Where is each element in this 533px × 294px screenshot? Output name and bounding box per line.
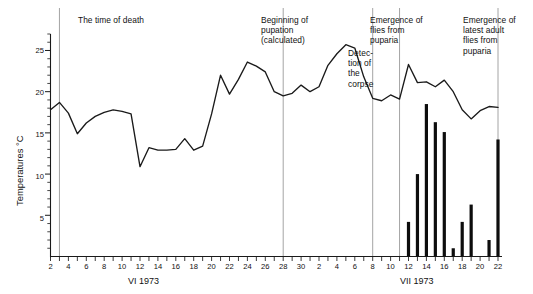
bar-VII-19: [470, 205, 473, 257]
x-tick-label-VII-12: 12: [400, 262, 418, 271]
x-tick-label-VI-18: 18: [185, 262, 203, 271]
bar-VII-12: [407, 222, 410, 257]
x-tick-label-VI-2: 2: [42, 262, 60, 271]
y-tick-label-5: 5: [28, 214, 44, 223]
y-tick-label-20: 20: [28, 88, 44, 97]
bar-VII-16: [443, 132, 446, 256]
x-tick-label-VI-20: 20: [203, 262, 221, 271]
y-tick-label-10: 10: [28, 172, 44, 181]
x-tick-label-VI-10: 10: [113, 262, 131, 271]
y-axis-title: Temperatures °C: [14, 136, 25, 206]
x-tick-label-VII-2: 2: [310, 262, 328, 271]
y-tick-label-25: 25: [28, 46, 44, 55]
bar-VII-17: [452, 248, 455, 256]
x-axis-caption-july: VII 1973: [400, 276, 434, 286]
x-tick-label-VI-30: 30: [292, 262, 310, 271]
bar-VII-22: [496, 139, 499, 256]
x-tick-label-VI-28: 28: [274, 262, 292, 271]
x-tick-label-VII-22: 22: [489, 262, 507, 271]
bar-VII-15: [434, 122, 437, 256]
annotation-emergence-of-flies: Emergence of flies from puparia: [370, 15, 460, 46]
bar-VII-13: [416, 174, 419, 256]
bar-VII-14: [425, 104, 428, 256]
x-tick-label-VI-8: 8: [95, 262, 113, 271]
x-tick-label-VI-4: 4: [59, 262, 77, 271]
x-tick-label-VI-6: 6: [77, 262, 95, 271]
x-tick-label-VI-24: 24: [238, 262, 256, 271]
x-tick-label-VII-18: 18: [453, 262, 471, 271]
annotation-emergence-latest-adult-flies: Emergence of latest adult flies from pup…: [463, 15, 533, 56]
x-tick-label-VI-12: 12: [131, 262, 149, 271]
x-tick-label-VII-8: 8: [364, 262, 382, 271]
x-tick-label-VII-6: 6: [346, 262, 364, 271]
x-tick-label-VII-16: 16: [435, 262, 453, 271]
temperature-line: [51, 45, 499, 167]
x-tick-label-VI-14: 14: [149, 262, 167, 271]
x-tick-label-VII-10: 10: [382, 262, 400, 271]
bar-VII-18: [461, 222, 464, 257]
x-axis-caption-june: VI 1973: [128, 276, 159, 286]
x-tick-label-VI-22: 22: [221, 262, 239, 271]
annotation-beginning-of-pupation: Beginning of pupation (calculated): [261, 15, 346, 46]
annotation-detection-of-corpse: Detec- tion of the corpse: [348, 48, 388, 89]
bar-VII-21: [487, 240, 490, 256]
annotation-time-of-death: The time of death: [78, 15, 228, 25]
x-tick-label-VI-26: 26: [256, 262, 274, 271]
x-tick-label-VII-14: 14: [417, 262, 435, 271]
x-tick-label-VI-16: 16: [167, 262, 185, 271]
x-tick-label-VII-4: 4: [328, 262, 346, 271]
y-tick-label-15: 15: [28, 130, 44, 139]
temperature-and-fly-emergence-chart: Temperatures °C 25 20 15 10 5 The time o…: [0, 0, 533, 294]
x-tick-label-VII-20: 20: [471, 262, 489, 271]
